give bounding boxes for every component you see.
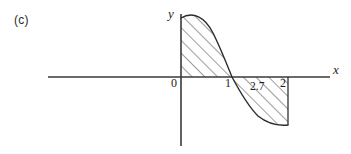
x-tick-label-1: 1 [225,76,231,91]
figure-container: (c) y x 0 1 [0,0,351,154]
x-tick-label-2: 2 [280,76,286,91]
inline-value-label: 2.7 [250,80,264,92]
origin-tick-label: 0 [171,76,177,91]
shaded-region-positive [181,15,232,77]
x-axis-label: x [333,62,339,78]
y-axis-label: y [168,6,174,22]
